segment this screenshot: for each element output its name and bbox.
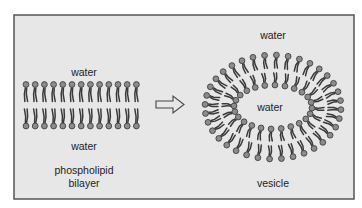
bilayer-water-bottom-label: water [70,140,97,152]
bilayer-water-top-label: water [70,66,97,78]
vesicle-caption: vesicle [257,177,289,189]
vesicle-water-outside-label: water [259,29,286,41]
bilayer-vesicle-diagram: water water phospholipid bilayer water w… [0,0,362,208]
vesicle-water-inside-label: water [256,101,283,113]
bilayer-caption-line1: phospholipid [55,164,114,176]
bilayer-caption-line2: bilayer [69,177,100,189]
